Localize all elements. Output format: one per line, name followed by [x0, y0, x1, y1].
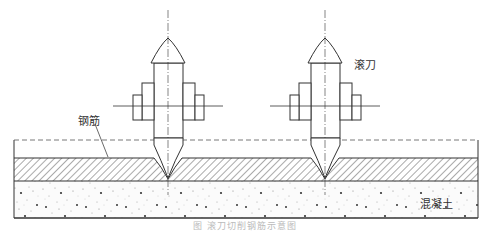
- concrete-label: 混凝土: [420, 195, 453, 211]
- figure-caption: 图 滚刀切削钢筋示意图: [0, 219, 490, 231]
- cutter-cutting-rebar-diagram: [0, 0, 490, 231]
- rebar-layer: [14, 158, 478, 181]
- rebar-leader-line: [95, 124, 108, 157]
- rebar-label: 钢筋: [78, 112, 100, 128]
- concrete-layer: [14, 181, 478, 218]
- cutter-label: 滚刀: [354, 56, 376, 72]
